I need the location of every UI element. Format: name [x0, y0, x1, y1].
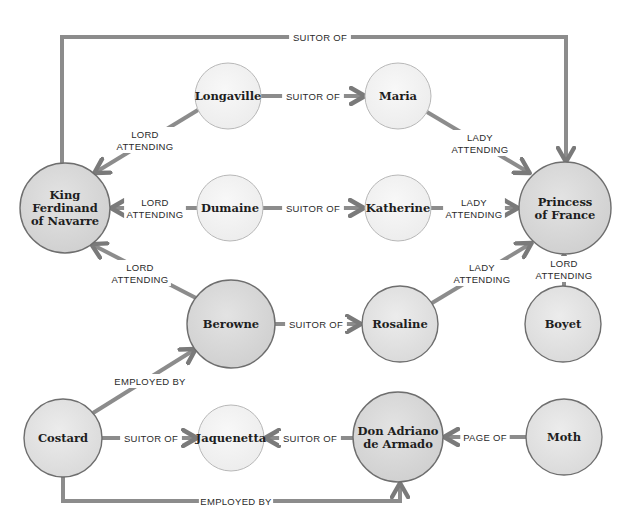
- edge-label-rosaline-to-princess: LADYATTENDING: [451, 260, 513, 286]
- node-label: Princess: [538, 195, 593, 209]
- edge-label-text: ATTENDING: [536, 270, 593, 281]
- edge-label-text: SUITOR OF: [124, 433, 178, 444]
- node-label: Jaquenetta: [195, 431, 267, 445]
- node-label: Boyet: [545, 317, 582, 331]
- node-rosaline[interactable]: Rosaline: [362, 286, 438, 362]
- edge-label-text: SUITOR OF: [293, 32, 347, 43]
- edge-label-text: ATTENDING: [454, 274, 511, 285]
- node-label: Longaville: [195, 89, 262, 103]
- relationship-diagram: KingFerdinandof NavarreLongavilleMariaDu…: [0, 0, 624, 518]
- edge-label-dumaine-to-katherine: SUITOR OF: [282, 201, 344, 215]
- edge-label-text: EMPLOYED BY: [200, 496, 272, 507]
- edge-label-longaville-to-maria: SUITOR OF: [282, 89, 344, 103]
- node-longaville[interactable]: Longaville: [195, 63, 262, 129]
- edge-label-text: LADY: [461, 197, 487, 208]
- node-berowne[interactable]: Berowne: [187, 280, 275, 368]
- node-label: Moth: [547, 430, 582, 444]
- edge-label-text: SUITOR OF: [289, 319, 343, 330]
- edge-label-berowne-to-king: LORDATTENDING: [109, 260, 171, 286]
- edge-label-dumaine-to-king: LORDATTENDING: [124, 195, 186, 221]
- edge-label-longaville-to-king: LORDATTENDING: [114, 127, 176, 153]
- edge-label-text: LORD: [126, 262, 154, 273]
- node-boyet[interactable]: Boyet: [525, 286, 601, 362]
- node-label: de Armado: [363, 437, 433, 451]
- node-label: Maria: [379, 89, 418, 103]
- edge-label-moth-to-armado: PAGE OF: [460, 430, 509, 444]
- edge-label-text: LADY: [469, 262, 495, 273]
- edge-label-costard-to-berowne: EMPLOYED BY: [113, 374, 187, 388]
- edge-label-katherine-to-princess: LADYATTENDING: [443, 195, 505, 221]
- edge-label-text: LORD: [141, 197, 169, 208]
- edge-label-text: SUITOR OF: [283, 433, 337, 444]
- edge-label-text: EMPLOYED BY: [114, 376, 186, 387]
- node-dumaine[interactable]: Dumaine: [197, 175, 263, 241]
- node-jaquenetta[interactable]: Jaquenetta: [195, 405, 267, 471]
- edge-label-text: ATTENDING: [127, 209, 184, 220]
- node-armado[interactable]: Don Adrianode Armado: [353, 392, 443, 482]
- node-label: Katherine: [366, 201, 431, 215]
- edge-label-text: SUITOR OF: [286, 91, 340, 102]
- edge-label-text: ATTENDING: [446, 209, 503, 220]
- node-moth[interactable]: Moth: [526, 399, 602, 475]
- edge-label-berowne-to-rosaline: SUITOR OF: [285, 317, 347, 331]
- edge-label-costard-to-jaquenetta: SUITOR OF: [120, 431, 182, 445]
- node-label: Dumaine: [201, 201, 259, 215]
- node-costard[interactable]: Costard: [24, 399, 102, 477]
- edge-label-costard-to-armado: EMPLOYED BY: [199, 494, 273, 508]
- edge-label-armado-to-jaquenetta: SUITOR OF: [279, 431, 341, 445]
- diagram-canvas: KingFerdinandof NavarreLongavilleMariaDu…: [0, 0, 624, 518]
- edge-label-maria-to-princess: LADYATTENDING: [449, 130, 511, 156]
- node-maria[interactable]: Maria: [365, 63, 431, 129]
- node-label: Berowne: [203, 317, 259, 331]
- node-king[interactable]: KingFerdinandof Navarre: [20, 163, 110, 253]
- edge-label-text: ATTENDING: [117, 141, 174, 152]
- node-label: of Navarre: [31, 214, 99, 228]
- edge-label-text: LORD: [131, 129, 159, 140]
- node-katherine[interactable]: Katherine: [365, 175, 431, 241]
- edge-label-king-to-princess: SUITOR OF: [289, 30, 351, 44]
- edge-label-boyet-to-princess: LORDATTENDING: [533, 256, 595, 282]
- node-princess[interactable]: Princessof France: [519, 162, 611, 254]
- node-label: Rosaline: [372, 317, 428, 331]
- nodes-layer: KingFerdinandof NavarreLongavilleMariaDu…: [20, 63, 611, 482]
- edge-label-text: PAGE OF: [463, 432, 507, 443]
- node-label: Ferdinand: [32, 201, 98, 215]
- edge-label-text: LADY: [467, 132, 493, 143]
- edge-label-text: ATTENDING: [452, 144, 509, 155]
- node-label: King: [50, 188, 81, 202]
- node-label: of France: [535, 208, 596, 222]
- node-label: Costard: [38, 431, 88, 445]
- edge-label-text: SUITOR OF: [286, 203, 340, 214]
- edge-label-text: ATTENDING: [112, 274, 169, 285]
- node-label: Don Adriano: [358, 424, 439, 438]
- edge-label-text: LORD: [550, 258, 578, 269]
